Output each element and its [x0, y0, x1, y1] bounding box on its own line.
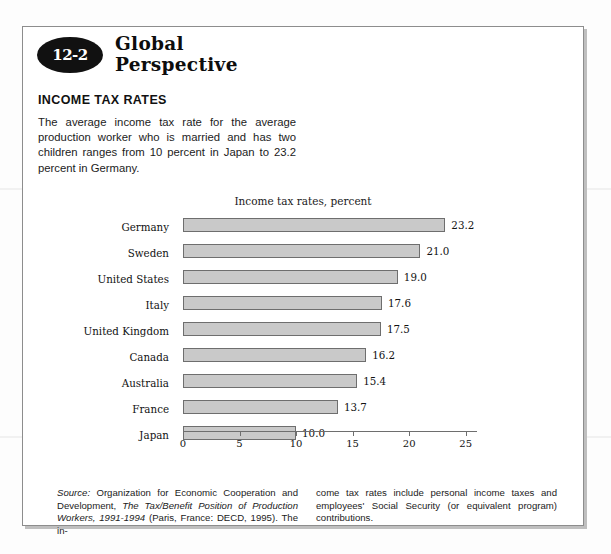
chart-bar	[183, 322, 381, 336]
chart-value-label: 17.5	[387, 323, 410, 335]
source-label: Source:	[57, 487, 90, 498]
footnote-column-right: come tax rates include personal income t…	[316, 487, 557, 537]
chart-x-tick	[466, 431, 467, 436]
chart-value-label: 21.0	[426, 245, 449, 257]
chart-bar	[183, 244, 420, 258]
chart-category-label: Japan	[23, 429, 169, 441]
chart-plot-area: Germany23.2Sweden21.0United States19.0It…	[23, 215, 583, 425]
chart-x-tick	[409, 431, 410, 436]
chart-category-label: Sweden	[23, 247, 169, 259]
chart-value-label: 15.4	[363, 375, 386, 387]
chart-bar-row: United Kingdom17.5	[23, 319, 583, 345]
chart-value-label: 19.0	[404, 271, 427, 283]
chart-x-tick	[240, 431, 241, 436]
chart-value-label: 17.6	[388, 297, 411, 309]
global-perspective-box: 12-2 Global Perspective INCOME TAX RATES…	[22, 26, 584, 526]
chart-bar	[183, 400, 338, 414]
chart-bar-row: Australia15.4	[23, 371, 583, 397]
chart-value-label: 16.2	[372, 349, 395, 361]
chart-title: Income tax rates, percent	[23, 195, 583, 207]
box-title-line1: Global	[115, 33, 184, 54]
chart-category-label: United Kingdom	[23, 325, 169, 337]
chapter-badge-number: 12-2	[37, 37, 103, 73]
chart-value-label: 23.2	[451, 219, 474, 231]
box-title: Global Perspective	[115, 33, 238, 75]
chart-bar-row: Italy17.6	[23, 293, 583, 319]
footnote-column-left: Source: Organization for Economic Cooper…	[57, 487, 298, 537]
chart-bar	[183, 296, 382, 310]
chart-bar	[183, 218, 445, 232]
chart-bar-row: Japan10.0	[23, 423, 583, 449]
chart-x-tick-label: 20	[403, 438, 416, 449]
section-heading: INCOME TAX RATES	[38, 93, 167, 107]
chart-x-tick-label: 0	[180, 438, 186, 449]
chart-x-tick	[296, 431, 297, 436]
chart-bar-row: United States19.0	[23, 267, 583, 293]
chart: Income tax rates, percent Germany23.2Swe…	[23, 195, 583, 457]
chart-value-label: 13.7	[344, 401, 367, 413]
chart-bar-row: Sweden21.0	[23, 241, 583, 267]
chart-x-tick-label: 15	[346, 438, 359, 449]
chart-x-tick	[183, 431, 184, 436]
chart-x-tick-label: 5	[236, 438, 242, 449]
chart-bar	[183, 270, 398, 284]
chart-bar	[183, 348, 366, 362]
chart-x-tick-label: 10	[290, 438, 303, 449]
chart-x-tick	[353, 431, 354, 436]
box-header: 12-2 Global Perspective	[23, 27, 583, 85]
chart-bar-row: France13.7	[23, 397, 583, 423]
chart-x-axis: 0510152025	[183, 431, 477, 432]
footnote: Source: Organization for Economic Cooper…	[57, 487, 557, 537]
box-title-line2: Perspective	[115, 54, 238, 75]
intro-paragraph: The average income tax rate for the aver…	[38, 115, 296, 176]
chart-bar-row: Germany23.2	[23, 215, 583, 241]
page-root: 12-2 Global Perspective INCOME TAX RATES…	[0, 0, 611, 554]
chart-category-label: Canada	[23, 351, 169, 363]
chapter-badge: 12-2	[37, 37, 103, 73]
chart-category-label: United States	[23, 273, 169, 285]
chart-category-label: Australia	[23, 377, 169, 389]
chart-category-label: Italy	[23, 299, 169, 311]
chart-category-label: France	[23, 403, 169, 415]
chart-bar-row: Canada16.2	[23, 345, 583, 371]
chart-x-tick-label: 25	[459, 438, 472, 449]
chart-category-label: Germany	[23, 221, 169, 233]
chart-bar	[183, 374, 357, 388]
chart-value-label: 10.0	[302, 427, 325, 439]
